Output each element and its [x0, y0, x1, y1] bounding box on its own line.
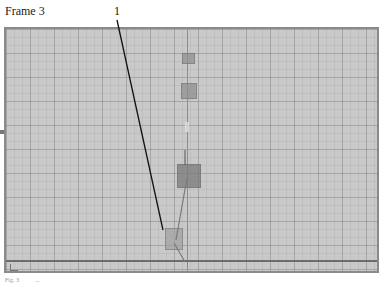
caption-right: ...	[35, 277, 40, 283]
leader-line	[117, 20, 163, 230]
leader-lines	[0, 0, 384, 287]
caption-left: Fig. 3	[5, 277, 19, 283]
link-line-lower	[174, 243, 185, 262]
link-line-upper	[176, 178, 187, 240]
